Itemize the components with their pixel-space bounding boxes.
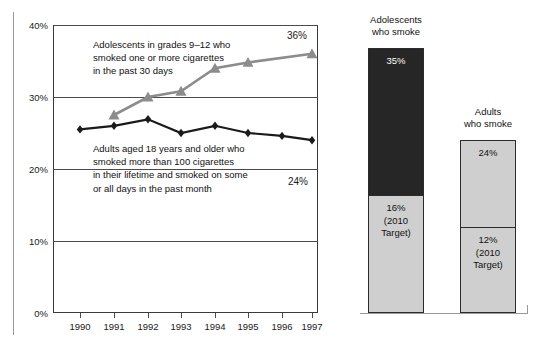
- teen-end-value-label: 36%: [287, 30, 307, 41]
- ytick-label-0: 0%: [34, 308, 48, 319]
- xtick-label-1996: 1996: [271, 321, 292, 332]
- xtick-1995: [248, 313, 249, 318]
- figure-root: 40% 30% 20% 10% 0% 1990 1991 1992 1993 1…: [0, 0, 538, 347]
- adult-end-value-label: 24%: [288, 176, 308, 187]
- data-point-marker: [212, 122, 219, 130]
- bar-value-target-adults: 12% (2010 Target): [473, 228, 503, 272]
- xtick-label-1997: 1997: [301, 321, 322, 332]
- ytick-label-40: 40%: [29, 20, 48, 31]
- xtick-1990: [80, 313, 81, 318]
- bar-value-target-adolescents: 16% (2010 Target): [381, 196, 411, 240]
- data-point-marker: [108, 110, 119, 120]
- ytick-label-30: 30%: [29, 92, 48, 103]
- xtick-label-1993: 1993: [170, 321, 191, 332]
- xtick-label-1995: 1995: [237, 321, 258, 332]
- ytick-label-20: 20%: [29, 164, 48, 175]
- bar-title-adults: Adults who smoke: [448, 106, 528, 130]
- xtick-1996: [282, 313, 283, 318]
- xtick-label-1992: 1992: [137, 321, 158, 332]
- bar-column-adults[interactable]: 24% 12% (2010 Target): [460, 140, 516, 313]
- bar-value-current-adults: 24%: [478, 141, 497, 160]
- annotation-adults: Adults aged 18 years and older who smoke…: [93, 142, 248, 195]
- xtick-1994: [215, 313, 216, 318]
- ytick-label-10: 10%: [29, 236, 48, 247]
- series-line-adults: [80, 119, 312, 140]
- xtick-1992: [148, 313, 149, 318]
- xtick-1993: [181, 313, 182, 318]
- bar-value-current-adolescents: 35%: [386, 49, 405, 68]
- bar-column-adolescents[interactable]: 35% 16% (2010 Target): [368, 48, 424, 313]
- data-point-marker: [145, 115, 152, 123]
- data-point-marker: [245, 129, 252, 137]
- bar-segment-current-adults: 24%: [461, 141, 515, 227]
- line-chart-plot-area: 40% 30% 20% 10% 0% 1990 1991 1992 1993 1…: [53, 25, 318, 313]
- data-point-marker: [309, 136, 316, 144]
- xtick-label-1991: 1991: [103, 321, 124, 332]
- xtick-1997: [312, 313, 313, 318]
- bar-chart-panel: Adolescents who smoke 35% 16% (2010 Targ…: [360, 0, 538, 347]
- annotation-adolescents: Adolescents in grades 9–12 who smoked on…: [93, 38, 230, 78]
- data-point-marker: [178, 129, 185, 137]
- bar-title-adolescents: Adolescents who smoke: [356, 14, 436, 38]
- figure-left-rule: [13, 12, 14, 335]
- data-point-marker: [111, 122, 118, 130]
- bar-segment-target-adolescents: 16% (2010 Target): [369, 195, 423, 312]
- data-point-marker: [77, 125, 84, 133]
- xtick-label-1990: 1990: [69, 321, 90, 332]
- xtick-label-1994: 1994: [204, 321, 225, 332]
- xtick-1991: [114, 313, 115, 318]
- bar-segment-target-adults: 12% (2010 Target): [461, 227, 515, 312]
- data-point-marker: [279, 132, 286, 140]
- bar-segment-current-adolescents: 35%: [369, 49, 423, 195]
